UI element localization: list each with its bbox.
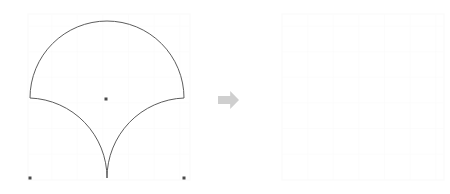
right-panel-grid <box>282 14 444 180</box>
transform-arrow <box>218 91 239 109</box>
bottom-right-dot <box>183 177 186 180</box>
source-figure-panel <box>28 14 190 180</box>
canvas-root: Geometric shape dissection: source figur… <box>0 0 450 194</box>
left-panel-grid <box>28 14 190 180</box>
center-dot <box>105 98 108 101</box>
right-arrow-icon <box>218 91 239 109</box>
figure-svg <box>0 0 450 194</box>
bottom-left-dot <box>29 177 32 180</box>
target-empty-panel <box>282 14 444 180</box>
